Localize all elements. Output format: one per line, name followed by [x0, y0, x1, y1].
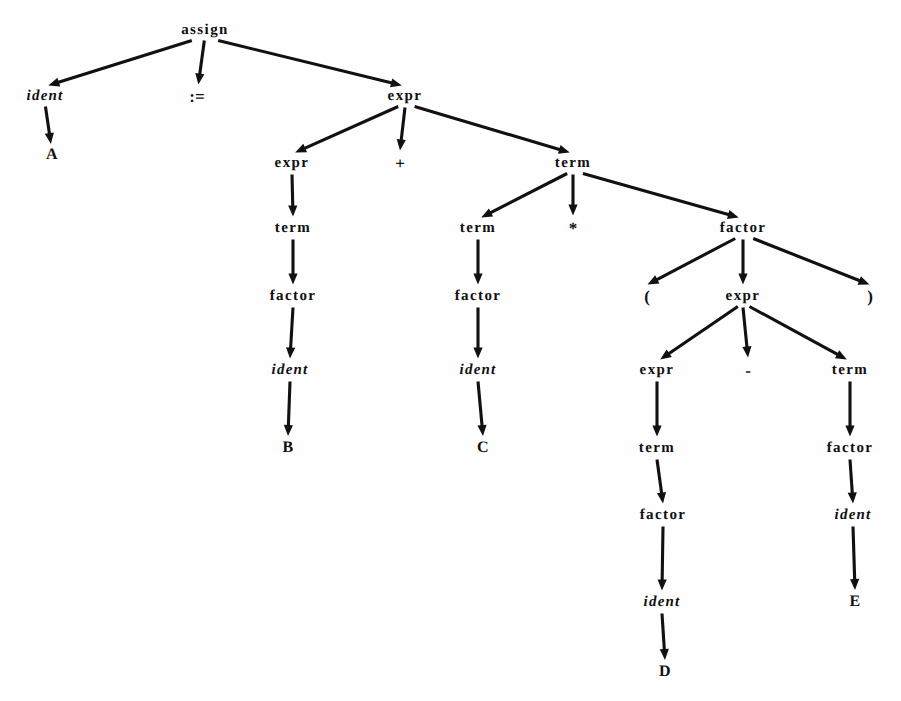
- tree-node-factor: factor: [827, 441, 874, 456]
- tree-node-ident: ident: [27, 89, 64, 104]
- edge-expr-to-term: [652, 382, 661, 437]
- edge-factor-to-): [753, 239, 869, 285]
- tree-node-expr: expr: [388, 89, 423, 104]
- edge-expr-to-expr: [660, 307, 738, 360]
- edge-factor-to-ident: [848, 460, 857, 504]
- tree-node-E: E: [849, 594, 860, 610]
- parse-tree-figure: assignident:=exprAexpr+termtermterm*fact…: [0, 0, 901, 701]
- tree-node-factor: factor: [455, 289, 502, 304]
- tree-node-term: term: [832, 363, 868, 378]
- tree-node-A: A: [46, 147, 58, 163]
- tree-node-: *: [569, 220, 578, 237]
- edge-assign-to-:=: [195, 41, 204, 85]
- edge-term-to-factor: [583, 174, 739, 219]
- tree-node-: +: [395, 155, 405, 172]
- tree-node-D: D: [659, 664, 671, 680]
- tree-node-term: term: [555, 156, 591, 171]
- tree-node-C: C: [477, 440, 489, 456]
- tree-node-factor: factor: [720, 221, 767, 236]
- tree-node-factor: factor: [640, 508, 687, 523]
- edge-expr-to-term: [288, 175, 297, 217]
- edge-expr-to-expr: [295, 107, 398, 153]
- edge-term-to-factor: [288, 240, 297, 285]
- edge-factor-to-(: [648, 239, 736, 285]
- tree-node-expr: expr: [275, 156, 310, 171]
- edge-term-to-factor: [473, 240, 482, 285]
- tree-node-: (: [644, 288, 650, 305]
- edge-ident-to-E: [850, 527, 859, 591]
- tree-node-: ): [867, 288, 873, 305]
- tree-node-ident: ident: [644, 595, 681, 610]
- tree-node-assign: assign: [181, 23, 229, 38]
- tree-node-expr: expr: [640, 363, 675, 378]
- tree-node-factor: factor: [270, 289, 317, 304]
- tree-node-expr: expr: [726, 289, 761, 304]
- edge-ident-to-C: [477, 382, 486, 437]
- tree-node-ident: ident: [835, 508, 872, 523]
- tree-node-ident: ident: [272, 363, 309, 378]
- tree-node-B: B: [282, 440, 293, 456]
- tree-node-ident: ident: [460, 363, 497, 378]
- edge-assign-to-expr: [218, 41, 402, 88]
- edge-ident-to-B: [284, 382, 293, 437]
- edge-expr-to--: [742, 308, 751, 358]
- edge-term-to-*: [568, 175, 577, 216]
- tree-node-term: term: [639, 441, 675, 456]
- tree-node-term: term: [460, 221, 496, 236]
- edge-factor-to-ident: [286, 308, 295, 359]
- tree-node-: -: [745, 362, 751, 379]
- edge-ident-to-D: [660, 614, 669, 661]
- edge-assign-to-ident: [48, 41, 191, 87]
- edge-ident-to-A: [45, 107, 54, 145]
- edge-expr-to-term: [749, 307, 846, 360]
- edge-term-to-factor: [657, 460, 666, 504]
- edge-term-to-factor: [845, 382, 854, 437]
- edge-factor-to-expr: [738, 240, 747, 285]
- edge-term-to-term: [481, 174, 567, 218]
- edge-layer: [0, 0, 901, 701]
- tree-node-: :=: [189, 88, 204, 105]
- edge-expr-to-term: [415, 107, 570, 154]
- edge-factor-to-ident: [658, 527, 667, 591]
- tree-node-term: term: [275, 221, 311, 236]
- edge-expr-to-+: [397, 108, 406, 151]
- edge-factor-to-ident: [473, 308, 482, 359]
